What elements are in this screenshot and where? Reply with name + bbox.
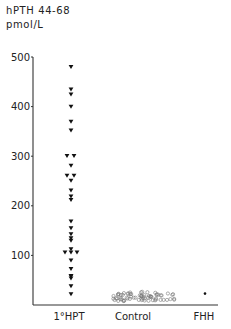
y-tick-label: 100 <box>11 250 30 261</box>
hpt-point <box>72 174 77 178</box>
x-category-label: Control <box>115 311 151 322</box>
control-point <box>165 298 168 301</box>
x-category-label: 1°HPT <box>53 311 85 322</box>
control-point <box>147 299 150 302</box>
control-point <box>126 297 129 300</box>
hpt-point <box>69 92 74 96</box>
hpt-point <box>69 232 74 236</box>
y-tick-label: 200 <box>11 200 30 211</box>
hpt-point <box>69 198 74 202</box>
hpt-point <box>69 219 74 223</box>
y-tick-label: 400 <box>11 101 30 112</box>
hpt-point <box>69 276 74 280</box>
control-point <box>125 296 128 299</box>
hpt-point <box>69 247 74 251</box>
x-axis-labels: 1°HPTControlFHH <box>53 311 214 322</box>
control-point <box>151 299 154 302</box>
hpt-point <box>69 189 74 193</box>
x-category-label: FHH <box>194 311 215 322</box>
hpt-point <box>69 87 74 91</box>
hpt-point <box>69 179 74 183</box>
hpt-point <box>69 239 74 243</box>
control-point <box>141 290 144 293</box>
hpt-point <box>69 120 74 124</box>
hpt-point <box>69 164 74 168</box>
hpt-point <box>69 292 74 296</box>
scatter-chart: 100200300400500 1°HPTControlFHH <box>0 0 231 329</box>
axes: 100200300400500 <box>11 52 218 306</box>
fhh-point <box>204 292 207 295</box>
control-point <box>146 291 149 294</box>
hpt-point <box>69 65 74 69</box>
control-point <box>166 292 169 295</box>
hpt-point <box>69 129 74 133</box>
hpt-point <box>69 251 74 255</box>
hpt-point <box>69 284 74 288</box>
hpt-point <box>63 251 68 255</box>
y-tick-label: 500 <box>11 52 30 63</box>
hpt-point <box>69 259 74 263</box>
y-tick-label: 300 <box>11 151 30 162</box>
hpt-point <box>65 154 70 158</box>
data-points <box>63 65 207 302</box>
hpt-point <box>72 154 77 158</box>
hpt-point <box>75 251 80 255</box>
hpt-point <box>69 267 74 271</box>
hpt-point <box>69 105 74 109</box>
control-point <box>169 298 172 301</box>
hpt-point <box>69 195 74 199</box>
hpt-point <box>65 174 70 178</box>
hpt-point <box>69 226 74 230</box>
